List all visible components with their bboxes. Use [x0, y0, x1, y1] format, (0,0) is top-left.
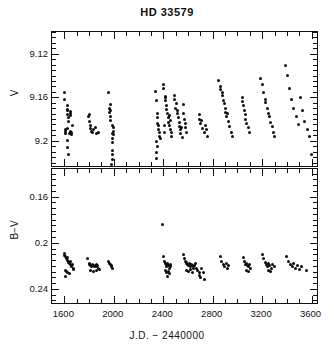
data-point [111, 267, 114, 270]
data-point [71, 263, 74, 266]
data-point [242, 104, 245, 107]
axis-tick [312, 169, 313, 176]
data-point [230, 131, 233, 134]
data-point [288, 87, 291, 90]
data-point [285, 255, 288, 258]
axis-tick [52, 208, 56, 209]
data-point [162, 255, 165, 258]
data-point [163, 131, 166, 134]
axis-tick [52, 202, 56, 203]
axis-tick [313, 65, 317, 66]
axis-tick [299, 299, 300, 303]
data-point [245, 122, 248, 125]
axis-tick [310, 97, 317, 98]
axis-tick [225, 299, 226, 303]
data-point [206, 135, 209, 138]
data-point [180, 126, 183, 129]
data-point [111, 153, 114, 156]
axis-tick [310, 197, 317, 198]
axis-tick [313, 254, 317, 255]
data-point [158, 131, 161, 134]
data-point [201, 127, 204, 130]
data-point [67, 153, 70, 156]
axis-tick [52, 86, 56, 87]
data-point [200, 267, 203, 270]
axis-tick [275, 299, 276, 303]
data-point [200, 119, 203, 122]
data-point [301, 109, 304, 112]
data-point [109, 115, 112, 118]
axis-tick [64, 296, 65, 303]
axis-tick [313, 103, 317, 104]
axis-tick [313, 70, 317, 71]
axis-tick [250, 162, 251, 166]
axis-tick [52, 141, 59, 142]
axis-tick [225, 169, 226, 173]
axis-tick [139, 299, 140, 303]
axis-tick [310, 243, 317, 244]
data-point [292, 107, 295, 110]
axis-tick [52, 114, 56, 115]
axis-tick [52, 163, 56, 164]
axis-tick-label: 0.16 [30, 190, 49, 201]
axis-tick [313, 283, 317, 284]
axis-tick [275, 162, 276, 166]
axis-tick-label: 2800 [201, 308, 222, 319]
axis-tick [77, 32, 78, 36]
data-point [109, 103, 112, 106]
data-point [68, 272, 71, 275]
data-point [165, 108, 168, 111]
axis-tick [313, 37, 317, 38]
axis-tick [114, 32, 115, 39]
axis-tick [77, 169, 78, 173]
data-point [184, 126, 187, 129]
data-point [242, 256, 245, 259]
axis-tick [163, 296, 164, 303]
axis-tick [151, 162, 152, 166]
axis-tick [52, 146, 56, 147]
data-point [182, 253, 185, 256]
axis-tick [126, 32, 127, 36]
axis-tick [213, 169, 214, 176]
axis-tick [52, 92, 56, 93]
data-point [248, 263, 251, 266]
axis-tick [313, 59, 317, 60]
axis-tick [139, 162, 140, 166]
data-point [95, 269, 98, 272]
axis-tick [77, 299, 78, 303]
data-point [97, 131, 100, 134]
axis-tick [52, 97, 59, 98]
axis-tick [250, 169, 251, 173]
data-point [173, 98, 176, 101]
v-axis-tick-labels: 9.129.169.2 [2, 31, 48, 167]
data-point [194, 262, 197, 265]
data-point [71, 124, 74, 127]
axis-tick [151, 299, 152, 303]
axis-tick [313, 48, 317, 49]
axis-tick [52, 103, 56, 104]
axis-tick [176, 299, 177, 303]
axis-tick [313, 130, 317, 131]
axis-tick [89, 169, 90, 173]
axis-tick [200, 299, 201, 303]
axis-tick [313, 124, 317, 125]
axis-tick [188, 162, 189, 166]
axis-tick [313, 108, 317, 109]
axis-tick [262, 169, 263, 176]
axis-tick [313, 76, 317, 77]
axis-tick [52, 191, 56, 192]
axis-tick [313, 220, 317, 221]
axis-tick [114, 159, 115, 166]
axis-tick [52, 283, 56, 284]
axis-tick [52, 272, 56, 273]
axis-tick [313, 174, 317, 175]
data-point [199, 276, 202, 279]
axis-tick [225, 162, 226, 166]
axis-tick [313, 272, 317, 273]
axis-tick [225, 32, 226, 36]
data-point [298, 268, 301, 271]
data-point [91, 131, 94, 134]
axis-tick [313, 135, 317, 136]
data-point [269, 121, 272, 124]
data-point [198, 113, 201, 116]
